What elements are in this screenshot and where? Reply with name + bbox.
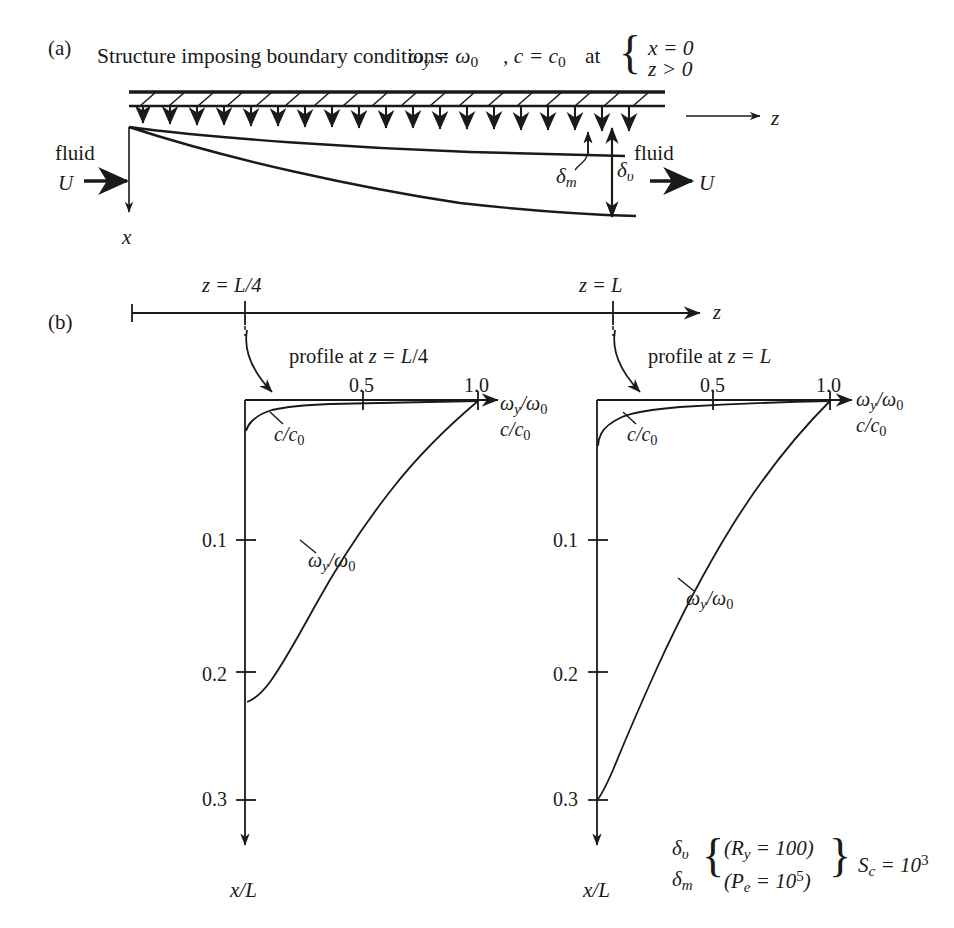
delta-v-label: δυ — [617, 160, 634, 184]
plot-left-xaxis-label-omega: ωy/ω0 — [500, 393, 547, 416]
plot-left-yaxis-label: x/L — [230, 880, 257, 901]
legend-delta-v-symbol: δυ — [672, 838, 689, 862]
delta-m-boundary-curve — [129, 127, 625, 156]
plot-left-caption: profile at z = L/4 — [289, 346, 428, 367]
delta-m-label: δm — [556, 166, 577, 190]
plot-right-curve-label-c: c/c0 — [627, 424, 658, 447]
legend-left-brace: { — [702, 833, 724, 879]
figure-vector-layer — [0, 0, 954, 928]
plot-left-xtick-1-0: 1.0 — [464, 375, 489, 395]
plot-left-axes — [236, 391, 498, 845]
boundary-condition-arrows — [143, 107, 629, 131]
boundary-conditions-stack: x = 0 z > 0 — [648, 33, 694, 85]
boundary-condition-x: x = 0 — [648, 38, 694, 60]
panel-a-tag: (a) — [48, 38, 71, 59]
panel-a-z-axis-label: z — [771, 108, 779, 129]
pointer-arrow-right-plot — [614, 330, 640, 392]
plot-right-xaxis-label-c: c/c0 — [856, 415, 887, 438]
structure-bar — [129, 92, 665, 106]
plot-left-xtick-0-5: 0.5 — [349, 375, 374, 395]
plot-right-ytick-0-1: 0.1 — [553, 530, 578, 550]
legend-schmidt-number: Sc = 103 — [858, 853, 928, 880]
boundary-condition-z: z > 0 — [648, 59, 694, 81]
plot-right-ytick-0-2: 0.2 — [553, 664, 578, 684]
z-tick-label-quarter: z = L/4 — [202, 275, 261, 296]
fluid-right-velocity: U — [699, 173, 714, 194]
plot-left-ytick-0-1: 0.1 — [202, 530, 227, 550]
fluid-left-label: fluid — [55, 143, 95, 164]
panel-a-x-axis-label: x — [122, 227, 131, 248]
plot-right-xaxis-label-omega: ωy/ω0 — [856, 389, 903, 412]
panel-b-z-axis-group — [132, 301, 700, 336]
pointer-arrow-left-plot — [246, 330, 272, 392]
plot-left-curve-label-omega: ωy/ω0 — [308, 550, 355, 573]
plot-right-xtick-0-5: 0.5 — [700, 375, 725, 395]
plot-right-curve-label-omega: ωy/ω0 — [686, 588, 733, 611]
panel-a-heading-main: Structure imposing boundary conditions: — [97, 46, 449, 68]
legend-pe-value: (Pe = 105) — [724, 869, 811, 896]
legend-right-brace: } — [829, 833, 851, 879]
plot-left-ytick-0-3: 0.3 — [202, 789, 227, 809]
plot-right-axes — [588, 391, 852, 845]
panel-b-z-axis-label: z — [713, 302, 721, 323]
plot-right-xtick-1-0: 1.0 — [816, 375, 841, 395]
legend-ry-value: (Ry = 100) — [724, 838, 814, 862]
fluid-left-velocity: U — [58, 173, 73, 194]
plot-right-caption: profile at z = L — [648, 346, 771, 367]
z-tick-label-full: z = L — [579, 275, 622, 296]
plot-right-yaxis-label: x/L — [583, 880, 610, 901]
legend-delta-m-symbol: δm — [672, 869, 693, 893]
panel-b-tag: (b) — [48, 312, 73, 333]
plot-right-ytick-0-3: 0.3 — [553, 789, 578, 809]
boundary-conditions-brace: { — [619, 30, 641, 76]
panel-a-condition-c: , c = c0 — [503, 46, 566, 70]
figure-root: (a) Structure imposing boundary conditio… — [0, 0, 954, 928]
panel-a-heading-at: at — [585, 46, 601, 68]
plot-left-ytick-0-2: 0.2 — [202, 664, 227, 684]
delta-m-dimension — [575, 132, 588, 170]
fluid-right-label: fluid — [634, 143, 674, 164]
plot-left-curve-label-c: c/c0 — [274, 424, 305, 447]
plot-left-xaxis-label-c: c/c0 — [500, 419, 531, 442]
panel-a-condition-omega: ωy = ω0 — [408, 46, 478, 70]
